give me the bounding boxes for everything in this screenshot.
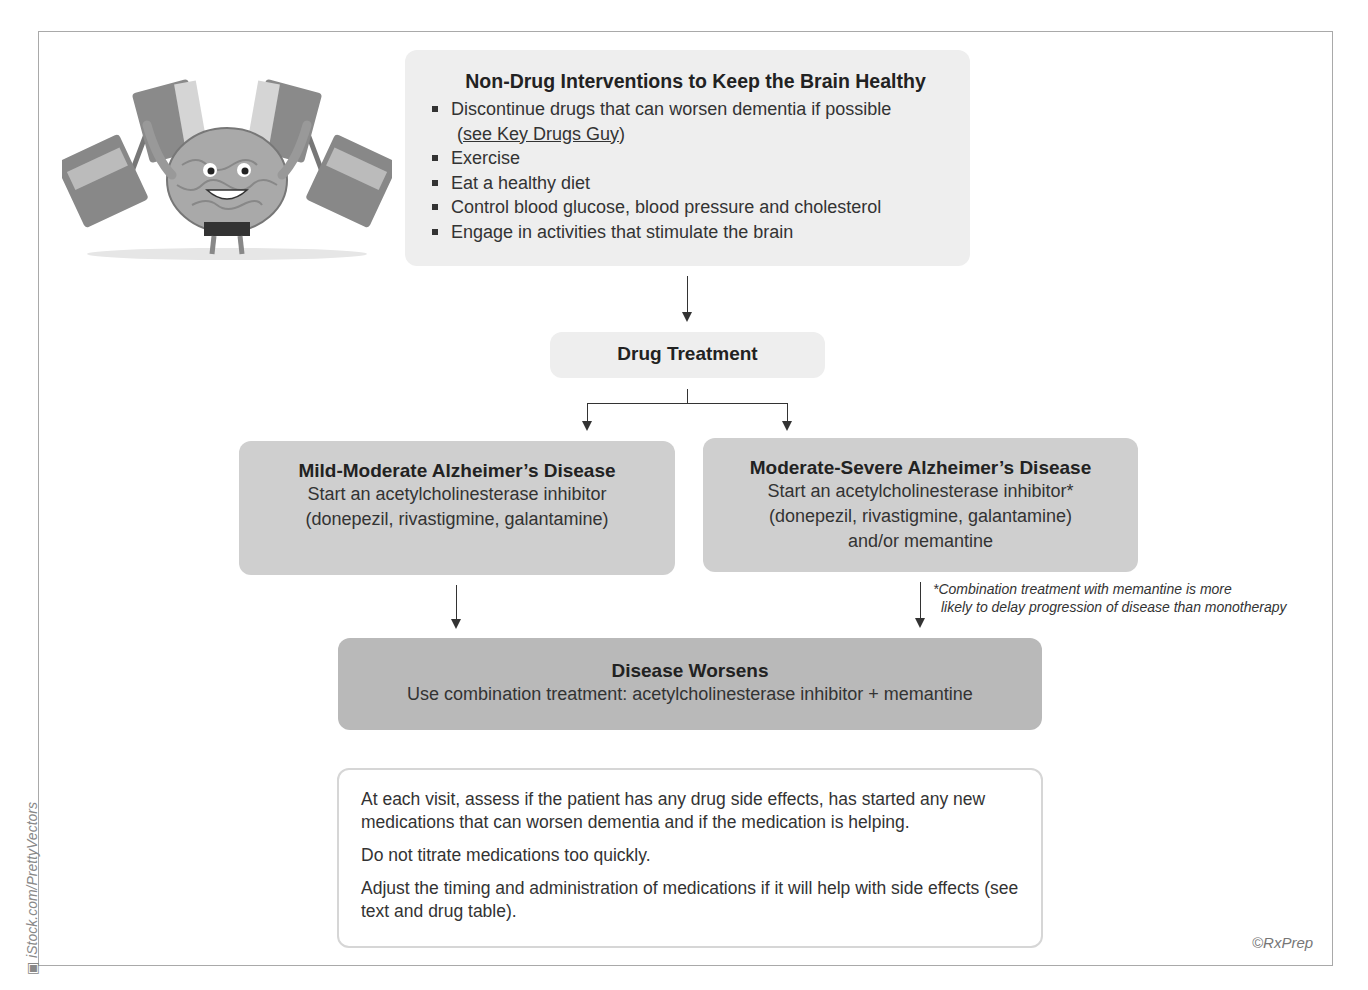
arrow-down-icon bbox=[687, 276, 688, 320]
monitoring-notes-box: At each visit, assess if the patient has… bbox=[337, 768, 1043, 948]
list-item: Eat a healthy diet bbox=[431, 171, 970, 196]
arrow-down-icon bbox=[456, 585, 457, 627]
nondrug-interventions-box: Non-Drug Interventions to Keep the Brain… bbox=[405, 50, 970, 266]
drug-treatment-title: Drug Treatment bbox=[550, 343, 825, 365]
moderate-severe-box: Moderate-Severe Alzheimer’s Disease Star… bbox=[703, 438, 1138, 572]
mild-line: Start an acetylcholinesterase inhibitor bbox=[239, 482, 675, 507]
nondrug-list: Discontinue drugs that can worsen dement… bbox=[431, 97, 970, 244]
nondrug-title: Non-Drug Interventions to Keep the Brain… bbox=[421, 70, 970, 93]
connector-line bbox=[687, 389, 688, 403]
list-item: Engage in activities that stimulate the … bbox=[431, 220, 970, 245]
footnote-line: *Combination treatment with memantine is… bbox=[933, 580, 1287, 598]
key-drugs-guy-link[interactable]: see Key Drugs Guy bbox=[463, 124, 619, 144]
footnote-line: likely to delay progression of disease t… bbox=[933, 598, 1287, 616]
modsev-line: (donepezil, rivastigmine, galantamine) bbox=[703, 504, 1138, 529]
camera-icon: ▣ bbox=[24, 958, 40, 975]
moderate-severe-title: Moderate-Severe Alzheimer’s Disease bbox=[703, 457, 1138, 479]
footnote: *Combination treatment with memantine is… bbox=[933, 580, 1287, 616]
list-item: Exercise bbox=[431, 146, 970, 171]
list-item: Discontinue drugs that can worsen dement… bbox=[431, 97, 970, 146]
arrow-down-icon bbox=[587, 403, 588, 429]
mild-moderate-title: Mild-Moderate Alzheimer’s Disease bbox=[239, 460, 675, 482]
drug-treatment-box: Drug Treatment bbox=[550, 332, 825, 378]
disease-worsens-title: Disease Worsens bbox=[338, 660, 1042, 682]
mild-line: (donepezil, rivastigmine, galantamine) bbox=[239, 507, 675, 532]
image-credit: ▣ iStock.com/PrettyVectors bbox=[24, 802, 40, 975]
arrow-down-icon bbox=[787, 403, 788, 429]
note-paragraph: Adjust the timing and administration of … bbox=[361, 877, 1041, 923]
note-paragraph: Do not titrate medications too quickly. bbox=[361, 844, 1041, 867]
connector-line bbox=[587, 403, 788, 404]
arrow-down-icon bbox=[920, 582, 921, 626]
key-drugs-link-wrapper: (see Key Drugs Guy) bbox=[451, 124, 625, 144]
modsev-line: Start an acetylcholinesterase inhibitor* bbox=[703, 479, 1138, 504]
disease-worsens-box: Disease Worsens Use combination treatmen… bbox=[338, 638, 1042, 730]
brain-lifting-books-icon bbox=[62, 70, 392, 265]
list-item: Control blood glucose, blood pressure an… bbox=[431, 195, 970, 220]
copyright-label: ©RxPrep bbox=[1252, 934, 1313, 951]
modsev-line: and/or memantine bbox=[703, 529, 1138, 554]
note-paragraph: At each visit, assess if the patient has… bbox=[361, 788, 1041, 834]
mild-moderate-box: Mild-Moderate Alzheimer’s Disease Start … bbox=[239, 441, 675, 575]
worsens-line: Use combination treatment: acetylcholine… bbox=[338, 682, 1042, 707]
